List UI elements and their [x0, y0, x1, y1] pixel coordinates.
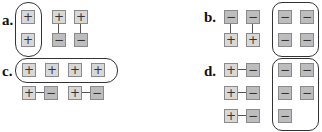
positive-tile: + [224, 109, 238, 123]
panel-label-a: a. [2, 13, 13, 28]
negative-tile: − [278, 109, 292, 123]
negative-tile: − [300, 10, 314, 24]
negative-tile: − [300, 86, 314, 100]
positive-tile: + [74, 10, 88, 24]
panel-label-c: c. [2, 64, 12, 79]
positive-tile: + [22, 86, 36, 100]
pair-connector [238, 92, 246, 93]
pair-connector [58, 24, 59, 33]
positive-tile: + [68, 86, 82, 100]
positive-tile: + [21, 10, 35, 24]
positive-tile: + [52, 10, 66, 24]
negative-tile: − [246, 86, 260, 100]
pair-connector [238, 69, 246, 70]
negative-tile: − [278, 63, 292, 77]
panel-label-b: b. [204, 10, 216, 25]
panel-label-d: d. [204, 64, 216, 79]
negative-tile: − [74, 33, 88, 47]
positive-tile: + [91, 63, 105, 77]
negative-tile: − [278, 10, 292, 24]
positive-tile: + [224, 33, 238, 47]
negative-tile: − [246, 10, 260, 24]
positive-tile: + [68, 63, 82, 77]
negative-tile: − [224, 10, 238, 24]
pair-connector [230, 24, 231, 33]
positive-tile: + [45, 63, 59, 77]
negative-tile: − [278, 33, 292, 47]
pair-connector [238, 115, 246, 116]
negative-tile: − [52, 33, 66, 47]
negative-tile: − [246, 63, 260, 77]
positive-tile: + [22, 63, 36, 77]
negative-tile: − [300, 33, 314, 47]
positive-tile: + [224, 86, 238, 100]
positive-tile: + [21, 33, 35, 47]
negative-tile: − [90, 86, 104, 100]
pair-connector [82, 92, 90, 93]
negative-tile: − [300, 63, 314, 77]
pair-connector [252, 24, 253, 33]
positive-tile: + [224, 63, 238, 77]
negative-tile: − [246, 109, 260, 123]
negative-tile: − [278, 86, 292, 100]
pair-connector [80, 24, 81, 33]
pair-connector [36, 92, 44, 93]
negative-tile: − [44, 86, 58, 100]
positive-tile: + [246, 33, 260, 47]
